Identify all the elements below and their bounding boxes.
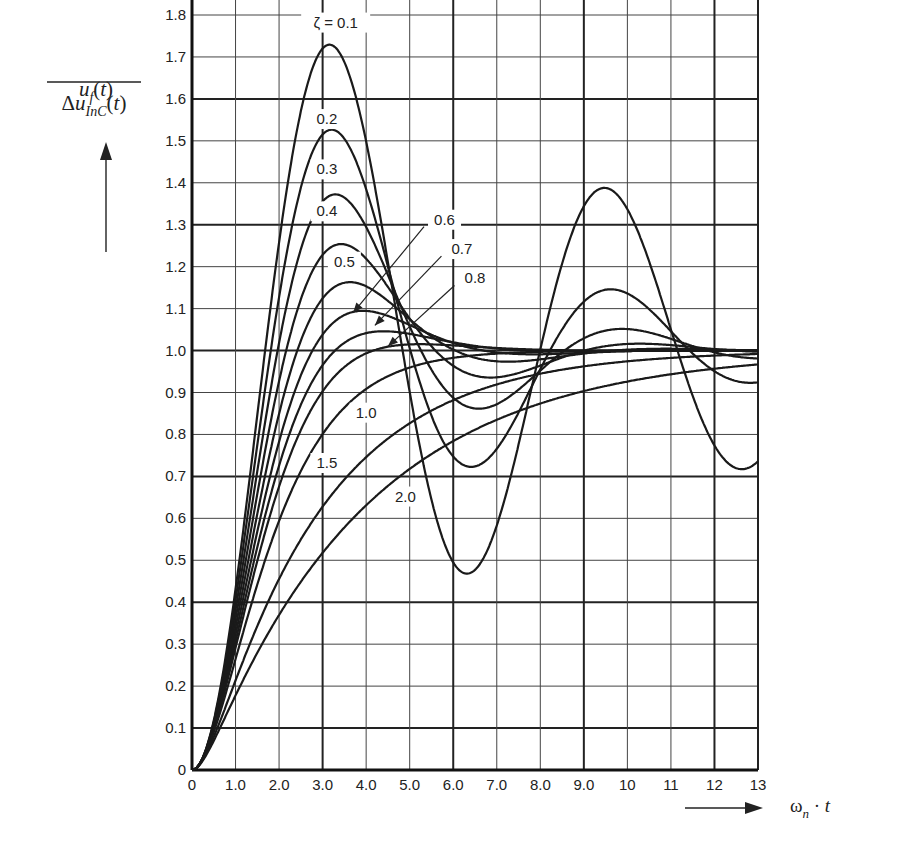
x-axis-ticks: 01.02.03.04.05.06.07.08.09.010111213 [188,776,767,793]
y-axis-label: uf(t) ΔuInC(t) [47,77,141,252]
y-axis-ticks: 00.10.20.30.40.50.60.70.80.91.01.11.21.3… [165,6,186,778]
y-tick-label: 1.8 [165,6,186,23]
grid [192,0,758,770]
x-tick-label: 1.0 [225,776,246,793]
curve-zeta-0-1 [192,45,758,770]
curve-label: 1.5 [317,454,338,471]
step-response-chart: 00.10.20.30.40.50.60.70.80.91.01.11.21.3… [0,0,897,856]
y-tick-label: 0.3 [165,635,186,652]
x-tick-label: 10 [619,776,636,793]
x-tick-label: 4.0 [356,776,377,793]
y-tick-label: 0.7 [165,467,186,484]
x-tick-label: 13 [750,776,767,793]
y-tick-label: 1.7 [165,48,186,65]
curve-zeta-0-7 [192,331,758,770]
curve-label: 0.8 [465,269,486,286]
curve-label: ζ = 0.1 [313,14,358,31]
y-tick-label: 0.5 [165,551,186,568]
curve-label: 0.2 [317,110,338,127]
y-tick-label: 0.8 [165,425,186,442]
y-arrow-icon [100,142,112,160]
y-tick-label: 0.4 [165,593,186,610]
y-tick-label: 1.6 [165,90,186,107]
x-tick-label: 9.0 [573,776,594,793]
y-tick-label: 1.0 [165,342,186,359]
curve-label: 0.7 [452,240,473,257]
x-axis-label: ωn · t [685,795,831,821]
curve-label: 0.5 [334,253,355,270]
curve-label: 0.6 [434,211,455,228]
leader-line [353,227,424,313]
y-tick-label: 0 [178,761,186,778]
x-tick-label: 7.0 [486,776,507,793]
x-label-text: ωn · t [790,795,831,821]
y-tick-label: 1.2 [165,258,186,275]
y-tick-label: 1.3 [165,216,186,233]
y-tick-label: 0.9 [165,384,186,401]
x-tick-label: 0 [188,776,196,793]
x-tick-label: 2.0 [269,776,290,793]
y-tick-label: 0.6 [165,509,186,526]
x-tick-label: 3.0 [312,776,333,793]
x-tick-label: 12 [706,776,723,793]
curve-label: 1.0 [356,404,377,421]
y-tick-label: 1.1 [165,300,186,317]
curve-zeta-0-4 [192,244,758,770]
y-tick-label: 0.1 [165,719,186,736]
x-arrow-icon [745,802,763,814]
curve-label: 0.3 [317,160,338,177]
x-tick-label: 11 [663,776,679,793]
y-tick-label: 0.2 [165,677,186,694]
curve-zeta-1-5 [192,354,758,770]
curve-label: 2.0 [395,488,416,505]
response-curves [192,45,758,770]
curve-label: 0.4 [317,202,338,219]
x-tick-label: 5.0 [399,776,420,793]
y-tick-label: 1.5 [165,132,186,149]
x-tick-label: 8.0 [530,776,551,793]
leader-line [388,285,455,346]
curve-zeta-0-6 [192,311,758,770]
x-tick-label: 6.0 [443,776,464,793]
y-tick-label: 1.4 [165,174,186,191]
